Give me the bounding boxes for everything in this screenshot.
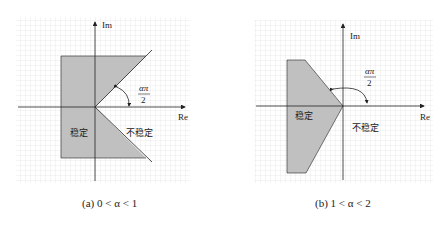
angle-numerator: απ (365, 66, 375, 76)
diagram-canvas: Im Re απ 2 稳定 不稳定 Im Re απ 2 稳定 不稳定 (0, 0, 446, 227)
angle-denominator: 2 (367, 78, 372, 88)
caption-a: (a) 0 < α < 1 (82, 197, 137, 209)
angle-denominator: 2 (141, 95, 146, 105)
re-label: Re (420, 112, 430, 122)
unstable-label: 不稳定 (352, 122, 379, 133)
caption-b: (b) 1 < α < 2 (315, 197, 371, 209)
stable-label: 稳定 (70, 127, 88, 138)
stable-label: 稳定 (295, 110, 313, 121)
panel-b: Im Re απ 2 稳定 不稳定 (254, 20, 433, 183)
re-label: Re (178, 112, 188, 122)
im-label: Im (350, 31, 360, 41)
panel-a: Im Re απ 2 稳定 不稳定 (16, 17, 190, 183)
im-label: Im (102, 20, 112, 30)
grid-background (254, 20, 433, 183)
angle-numerator: απ (139, 83, 149, 93)
unstable-label: 不稳定 (126, 127, 153, 138)
